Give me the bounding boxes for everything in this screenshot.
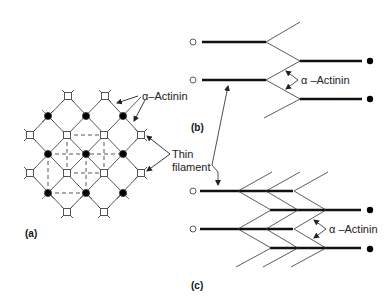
panel-label-c: (c) [191,280,203,291]
panel-label-a: (a) [25,228,37,239]
open-node [24,167,36,179]
dashed-unit-cell [48,135,123,193]
filled-circle-end [367,207,373,213]
open-circle-end [190,226,196,232]
panel-c: α –Actinin (c) [190,172,378,291]
open-node [64,132,71,139]
thin-filament-label-line2: filament [172,161,211,173]
open-node [101,170,108,177]
open-node [101,132,108,139]
open-circle-end [190,188,196,194]
thin-filament-pointers [212,86,228,185]
open-node [62,90,74,102]
alpha-actinin-label-a: α–Actinin [142,90,188,102]
open-node [24,129,36,141]
open-node [99,90,111,102]
alpha-actinin-label-b: α –Actinin [301,74,350,86]
open-circle-end [190,77,196,83]
thin-filament-arrows [147,136,170,171]
alpha-actinin-links-c [236,172,328,267]
open-node [61,206,73,218]
panel-a-lattice: α–Actinin Thin filament (a) [24,90,211,239]
open-node [135,129,147,141]
filled-circle-end [367,58,373,64]
alpha-actinin-arrows-b [286,71,298,89]
z-disc-diagram: α–Actinin Thin filament (a) [0,0,391,307]
open-node [135,167,147,179]
open-circle-end [190,39,196,45]
alpha-actinin-label-c: α –Actinin [329,223,378,235]
filled-circle-end [367,96,373,102]
thin-filament-label-line1: Thin [172,148,193,160]
open-node [98,206,110,218]
open-node [64,170,71,177]
panel-label-b: (b) [191,122,204,133]
panel-b: α –Actinin (b) [190,22,373,133]
filled-circle-end [367,246,373,252]
alpha-actinin-links-b [264,22,300,118]
alpha-actinin-arrows-c [314,220,326,238]
